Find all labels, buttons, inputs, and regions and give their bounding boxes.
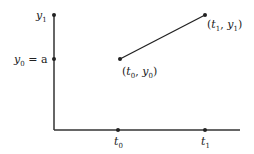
point-t1-y1 xyxy=(203,13,207,17)
interpolation-segment xyxy=(120,15,205,59)
y1-tick-dot xyxy=(52,13,56,17)
y1-label: y1 xyxy=(35,9,47,24)
y0-tick-dot xyxy=(52,57,56,61)
point-t0-y0 xyxy=(118,57,122,61)
point-t1-y1-label: (t1, y1) xyxy=(207,18,242,33)
t0-tick-dot xyxy=(116,128,120,132)
t1-tick-dot xyxy=(203,128,207,132)
diagram: y1 y0 = a t0 t1 (t0, y0) (t1, y1) xyxy=(0,0,254,154)
t1-label: t1 xyxy=(201,135,210,150)
point-t0-y0-label: (t0, y0) xyxy=(122,65,157,80)
y0-label: y0 = a xyxy=(13,53,48,68)
t0-label: t0 xyxy=(114,135,123,150)
